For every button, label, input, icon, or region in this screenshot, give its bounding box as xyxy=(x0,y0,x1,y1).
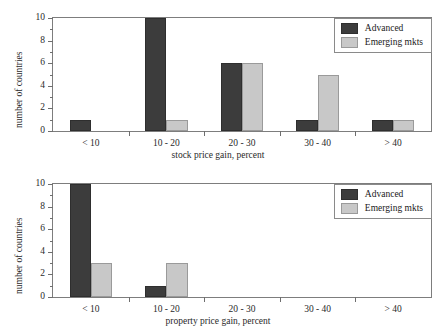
y-axis-minor-tick xyxy=(50,241,53,242)
legend-entry-emerging: Emerging mkts xyxy=(341,203,423,214)
bar-advanced xyxy=(145,18,166,131)
x-axis-category-label: 20 - 30 xyxy=(229,139,256,149)
y-axis-tick-label: 10 xyxy=(36,179,46,189)
bar-emerging xyxy=(166,120,187,131)
legend-label-advanced: Advanced xyxy=(365,190,404,200)
legend-swatch-advanced-icon xyxy=(341,23,358,34)
y-axis-tick-label: 4 xyxy=(40,247,45,257)
x-axis-tick xyxy=(355,131,356,136)
x-axis-title-property: property price gain, percent xyxy=(0,316,436,326)
bar-advanced xyxy=(372,120,393,131)
y-axis-tick-label: 0 xyxy=(40,126,45,136)
x-axis-category-label: 10 - 20 xyxy=(153,139,180,149)
bar-advanced xyxy=(221,63,242,131)
x-axis-tick xyxy=(129,131,130,136)
y-axis-tick xyxy=(48,297,53,298)
legend-swatch-advanced-icon xyxy=(341,189,358,200)
y-axis-tick xyxy=(48,41,53,42)
bar-advanced xyxy=(296,120,317,131)
bar-advanced xyxy=(70,120,91,131)
y-axis-tick xyxy=(48,63,53,64)
x-axis-tick xyxy=(129,297,130,302)
x-axis-category-label: 10 - 20 xyxy=(153,305,180,315)
x-axis-category-label: < 10 xyxy=(82,305,99,315)
x-axis-category-label: < 10 xyxy=(82,139,99,149)
y-axis-tick-label: 2 xyxy=(40,104,45,114)
y-axis-tick-label: 10 xyxy=(36,13,46,23)
x-axis-tick xyxy=(355,297,356,302)
x-axis-tick xyxy=(204,297,205,302)
y-axis-minor-tick xyxy=(50,218,53,219)
bar-emerging xyxy=(166,263,187,297)
y-axis-minor-tick xyxy=(50,195,53,196)
y-axis-minor-tick xyxy=(50,286,53,287)
legend-label-emerging: Emerging mkts xyxy=(365,38,423,48)
x-axis-title-stock: stock price gain, percent xyxy=(0,150,436,160)
y-axis-tick xyxy=(48,229,53,230)
y-axis-minor-tick xyxy=(50,120,53,121)
bar-advanced xyxy=(70,184,91,297)
y-axis-minor-tick xyxy=(50,75,53,76)
y-axis-tick xyxy=(48,184,53,185)
y-axis-tick xyxy=(48,252,53,253)
chart-panel-property-price-gain: number of countries 0246810< 1010 - 2020… xyxy=(0,164,436,334)
legend-swatch-emerging-icon xyxy=(341,37,358,48)
figure-two-bar-charts: number of countries 0246810< 1010 - 2020… xyxy=(0,0,436,334)
legend-entry-advanced: Advanced xyxy=(341,189,423,200)
y-axis-tick-label: 6 xyxy=(40,58,45,68)
x-axis-category-label: > 40 xyxy=(385,139,402,149)
y-axis-minor-tick xyxy=(50,29,53,30)
y-axis-tick-label: 2 xyxy=(40,270,45,280)
bar-emerging xyxy=(318,75,339,132)
y-axis-tick-label: 4 xyxy=(40,81,45,91)
y-axis-tick xyxy=(48,207,53,208)
bar-emerging xyxy=(91,263,112,297)
bar-emerging xyxy=(393,120,414,131)
y-axis-tick-label: 6 xyxy=(40,224,45,234)
legend-label-emerging: Emerging mkts xyxy=(365,204,423,214)
x-axis-tick xyxy=(280,131,281,136)
y-axis-tick xyxy=(48,274,53,275)
y-axis-tick-label: 8 xyxy=(40,36,45,46)
x-axis-category-label: > 40 xyxy=(385,305,402,315)
chart-panel-stock-price-gain: number of countries 0246810< 1010 - 2020… xyxy=(0,0,436,170)
y-axis-minor-tick xyxy=(50,97,53,98)
bar-advanced xyxy=(145,286,166,297)
y-axis-tick xyxy=(48,131,53,132)
y-axis-tick xyxy=(48,108,53,109)
legend-entry-emerging: Emerging mkts xyxy=(341,37,423,48)
x-axis-category-label: 30 - 40 xyxy=(304,305,331,315)
y-axis-minor-tick xyxy=(50,52,53,53)
y-axis-tick-label: 8 xyxy=(40,202,45,212)
y-axis-tick xyxy=(48,18,53,19)
y-axis-title-stock: number of countries xyxy=(14,51,24,128)
legend-label-advanced: Advanced xyxy=(365,24,404,34)
legend-swatch-emerging-icon xyxy=(341,203,358,214)
x-axis-category-label: 30 - 40 xyxy=(304,139,331,149)
y-axis-tick-label: 0 xyxy=(40,292,45,302)
x-axis-tick xyxy=(280,297,281,302)
bar-emerging xyxy=(242,63,263,131)
y-axis-minor-tick xyxy=(50,263,53,264)
legend-property: Advanced Emerging mkts xyxy=(334,184,432,219)
legend-stock: Advanced Emerging mkts xyxy=(334,18,432,53)
y-axis-tick xyxy=(48,86,53,87)
x-axis-category-label: 20 - 30 xyxy=(229,305,256,315)
x-axis-tick xyxy=(204,131,205,136)
legend-entry-advanced: Advanced xyxy=(341,23,423,34)
y-axis-title-property: number of countries xyxy=(14,217,24,294)
